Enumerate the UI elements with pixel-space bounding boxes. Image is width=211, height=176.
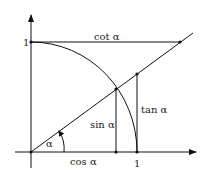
sin-label: sin α xyxy=(90,119,115,130)
cos-label: cos α xyxy=(70,156,97,167)
cot-point xyxy=(178,40,181,43)
x-one-label: 1 xyxy=(134,158,140,169)
angle-ray xyxy=(31,33,193,152)
unit-circle-arc xyxy=(31,42,137,152)
origin-point xyxy=(29,150,32,153)
tan-point xyxy=(135,72,138,75)
angle-arc-icon xyxy=(59,131,64,152)
circle-point xyxy=(114,87,117,90)
y-one-label: 1 xyxy=(23,37,29,48)
cot-label: cot α xyxy=(94,31,120,42)
y-one-point xyxy=(29,40,32,43)
angle-label: α xyxy=(46,138,53,149)
cos-point xyxy=(114,150,117,153)
x-one-point xyxy=(135,150,138,153)
tan-label: tan α xyxy=(141,104,168,115)
trig-diagram: 1 1 cot α tan α sin α cos α α xyxy=(0,0,211,176)
